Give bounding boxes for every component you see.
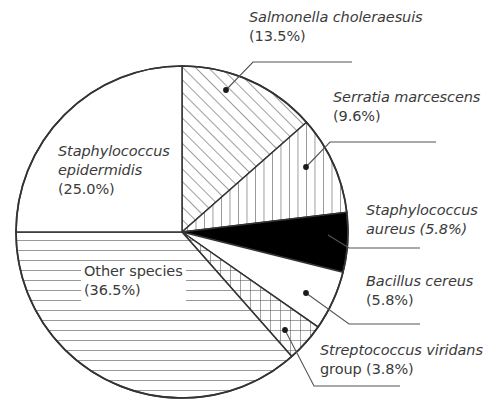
slice-label-bacillus: Bacillus cereus (5.8%) (366, 272, 473, 310)
marker-dot-salmonella (223, 87, 229, 93)
slice-label-salmonella: Salmonella choleraesuis (13.5%) (249, 8, 423, 46)
slice-label-epidermidis-line1: Staphylococcus (58, 142, 170, 161)
slice-label-other-species-percent: (36.5%) (84, 281, 183, 300)
slice-label-epidermidis-line2: epidermidis (58, 161, 170, 180)
slice-label-bacillus-species: Bacillus cereus (366, 272, 473, 291)
marker-dot-streptococcus (282, 327, 288, 333)
slice-label-staph-aureus-line2: aureus (5.8%) (366, 220, 478, 239)
slice-label-streptococcus-line1: Streptococcus viridans (320, 341, 483, 360)
slice-label-serratia-percent: (9.6%) (333, 107, 480, 126)
slice-label-salmonella-percent: (13.5%) (249, 27, 423, 46)
pie-chart-figure: Salmonella choleraesuis (13.5%) Serratia… (0, 0, 493, 414)
slice-label-staph-aureus: Staphylococcus aureus (5.8%) (366, 201, 478, 239)
pie-slices (16, 66, 348, 398)
slice-label-epidermidis-percent: (25.0%) (58, 180, 170, 199)
slice-label-serratia: Serratia marcescens (9.6%) (333, 88, 480, 126)
marker-dot-serratia (303, 164, 309, 170)
slice-label-other-species: Other species (36.5%) (81, 261, 186, 302)
slice-label-staph-aureus-line1: Staphylococcus (366, 201, 478, 220)
slice-label-bacillus-percent: (5.8%) (366, 291, 473, 310)
slice-label-streptococcus: Streptococcus viridans group (3.8%) (320, 341, 483, 379)
slice-label-other-species-name: Other species (84, 262, 183, 281)
slice-label-salmonella-species: Salmonella choleraesuis (249, 8, 423, 27)
slice-label-epidermidis: Staphylococcus epidermidis (25.0%) (55, 141, 173, 201)
slice-label-streptococcus-line2: group (3.8%) (320, 360, 483, 379)
marker-dot-bacillus (303, 290, 309, 296)
slice-label-serratia-species: Serratia marcescens (333, 88, 480, 107)
